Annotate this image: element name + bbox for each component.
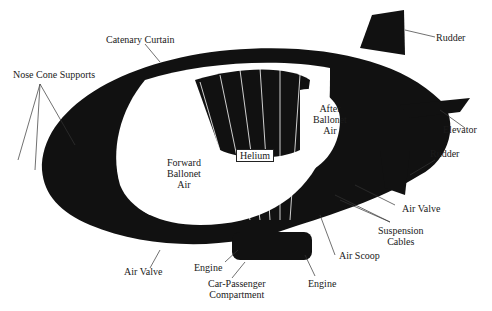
- label-rudder-top: Rudder: [436, 32, 465, 43]
- label-elevator: Elevator: [443, 124, 477, 135]
- label-helium: Helium: [236, 149, 274, 162]
- label-suspension-cables: Suspension Cables: [378, 225, 424, 247]
- label-after-ballonet-air: After Ballonet Air: [313, 103, 347, 136]
- label-air-valve-left: Air Valve: [124, 266, 162, 277]
- label-nose-cone-supports: Nose Cone Supports: [13, 69, 95, 80]
- label-air-valve-right: Air Valve: [402, 203, 440, 214]
- label-car-passenger-compartment: Car-Passenger Compartment: [208, 278, 266, 300]
- label-engine-left: Engine: [194, 262, 222, 273]
- label-catenary-curtain: Catenary Curtain: [106, 34, 175, 45]
- label-rudder-lower: Rudder: [430, 148, 459, 159]
- label-forward-ballonet-air: Forward Ballonet Air: [167, 157, 201, 190]
- label-engine-right: Engine: [308, 278, 336, 289]
- label-air-scoop: Air Scoop: [339, 250, 380, 261]
